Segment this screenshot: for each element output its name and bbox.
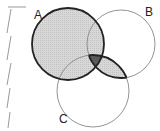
- edge-hatch: [7, 7, 26, 128]
- venn-diagram: A B C: [0, 0, 160, 131]
- label-c: C: [59, 112, 68, 126]
- label-a: A: [34, 8, 42, 22]
- label-b: B: [145, 5, 153, 19]
